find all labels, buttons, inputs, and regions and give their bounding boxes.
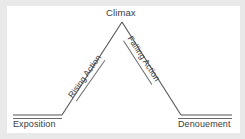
climax-label: Climax [106, 7, 136, 18]
exposition-label: Exposition [13, 119, 56, 130]
diagram-canvas: Climax Rising Action Falling Action Expo… [0, 0, 245, 139]
denouement-label: Denouement [178, 119, 231, 130]
